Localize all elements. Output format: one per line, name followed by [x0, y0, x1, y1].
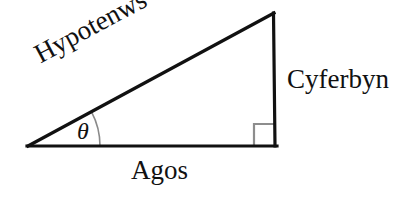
adjacent-label: Agos	[131, 157, 188, 184]
opposite-label: Cyferbyn	[287, 66, 389, 93]
triangle-side-opposite	[274, 13, 276, 146]
angle-arc-icon	[92, 112, 101, 146]
right-angle-marker-icon	[254, 124, 275, 146]
triangle-diagram: Hypotenws Cyferbyn Agos θ	[0, 0, 395, 204]
angle-theta-label: θ	[77, 119, 89, 143]
